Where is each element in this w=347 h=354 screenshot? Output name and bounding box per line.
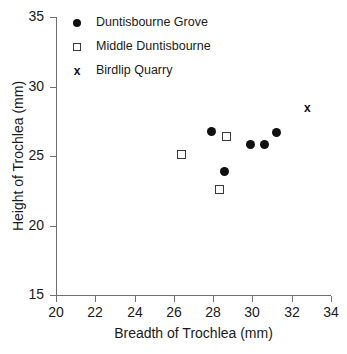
x-tick xyxy=(174,296,175,302)
x-tick xyxy=(292,296,293,302)
open-square-icon xyxy=(70,36,88,58)
x-tick-label: 20 xyxy=(41,304,71,320)
y-tick xyxy=(50,156,56,157)
filled-circle-glyph xyxy=(73,19,81,27)
data-point-filled-circle xyxy=(246,140,255,149)
x-tick xyxy=(56,296,57,302)
filled-circle-icon xyxy=(70,12,88,34)
y-tick xyxy=(50,87,56,88)
data-point-filled-circle xyxy=(272,128,281,137)
x-tick-label: 30 xyxy=(237,304,267,320)
y-tick xyxy=(50,17,56,18)
y-axis-title-wrap: Height of Trochlea (mm) xyxy=(9,16,27,296)
data-point-filled-circle xyxy=(260,140,269,149)
scatter-plot-figure: 1520253035 2022242628303234 Breadth of T… xyxy=(0,0,347,354)
y-tick xyxy=(50,226,56,227)
x-tick xyxy=(213,296,214,302)
x-tick-label: 24 xyxy=(120,304,150,320)
legend-label: Birdlip Quarry xyxy=(96,63,172,77)
x-tick-label: 22 xyxy=(80,304,110,320)
legend-label: Duntisbourne Grove xyxy=(96,15,208,29)
x-cross-glyph: x xyxy=(71,63,83,79)
x-tick xyxy=(331,296,332,302)
x-cross-icon: x xyxy=(70,60,88,82)
data-point-x-cross: x xyxy=(302,103,313,114)
x-tick xyxy=(95,296,96,302)
x-tick-label: 26 xyxy=(159,304,189,320)
y-axis-line xyxy=(56,17,57,296)
open-square-glyph xyxy=(73,43,81,51)
data-point-open-square xyxy=(215,185,224,194)
x-tick xyxy=(135,296,136,302)
data-point-filled-circle xyxy=(220,167,229,176)
x-tick-label: 32 xyxy=(277,304,307,320)
x-tick-label: 34 xyxy=(316,304,346,320)
x-axis-title: Breadth of Trochlea (mm) xyxy=(56,325,331,341)
x-tick xyxy=(252,296,253,302)
legend-label: Middle Duntisbourne xyxy=(96,39,211,53)
data-point-open-square xyxy=(177,150,186,159)
x-tick-label: 28 xyxy=(198,304,228,320)
data-point-filled-circle xyxy=(207,127,216,136)
y-axis-title: Height of Trochlea (mm) xyxy=(10,81,26,231)
x-axis-line xyxy=(56,295,331,296)
data-point-open-square xyxy=(222,132,231,141)
